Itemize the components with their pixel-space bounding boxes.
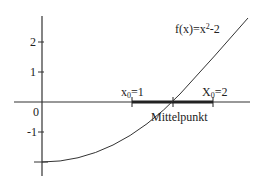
x0-end-label: X0=2 [202, 86, 227, 100]
y-tick-label-2: 2 [30, 36, 36, 48]
function-label: f(x)=x2-2 [175, 23, 220, 35]
midpoint-label: Mittelpunkt [151, 111, 208, 123]
label-rest: =1 [131, 85, 144, 99]
function-label-suffix: -2 [210, 22, 220, 36]
label-rest: =2 [215, 85, 228, 99]
function-label-prefix: f(x)=x [175, 22, 206, 36]
x0-start-label: x0=1 [121, 86, 144, 100]
y-tick-label-neg1: -1 [27, 126, 37, 138]
y-tick-label-1: 1 [30, 66, 36, 78]
label-base: X [202, 85, 211, 99]
origin-label: 0 [33, 106, 39, 118]
